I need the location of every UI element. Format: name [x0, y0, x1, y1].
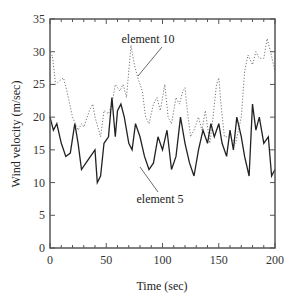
x-tick-label: 150: [210, 253, 228, 267]
annotation-leader-element-10: [138, 47, 162, 76]
y-tick-label: 35: [33, 12, 45, 26]
x-axis-title: Time (sec): [136, 279, 187, 293]
annotation-element-5: element 5: [137, 192, 184, 206]
series-element-5: [50, 98, 275, 183]
y-tick-label: 25: [33, 77, 45, 91]
series-layer: [50, 39, 275, 183]
x-tick-label: 0: [47, 253, 53, 267]
annotation-element-10: element 10: [122, 32, 175, 46]
y-tick-label: 30: [33, 45, 45, 59]
annotation-leader-element-5: [140, 167, 158, 192]
y-tick-label: 5: [39, 208, 45, 222]
x-tick-label: 200: [266, 253, 284, 267]
x-tick-label: 100: [154, 253, 172, 267]
y-tick-label: 15: [33, 143, 45, 157]
y-tick-label: 10: [33, 176, 45, 190]
y-axis-title: Wind velocity (m/sec): [9, 81, 23, 188]
y-tick-label: 0: [39, 241, 45, 255]
x-tick-label: 50: [100, 253, 112, 267]
series-element-10: [50, 39, 275, 144]
plot-frame: [50, 19, 275, 248]
wind-velocity-chart: 05010015020005101520253035 Time (sec) Wi…: [0, 0, 296, 297]
y-tick-label: 20: [33, 110, 45, 124]
